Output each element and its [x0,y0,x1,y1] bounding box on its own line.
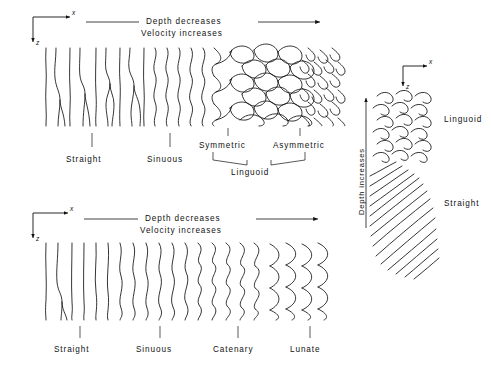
depth-decreases-label: Depth decreases [145,214,220,223]
label-lunate: Lunate [290,345,320,354]
right-panel-labels: Linguoid Straight [444,115,482,208]
right-bedform-field [370,90,439,279]
bottom-panel-labels: Straight Sinuous Catenary Lunate [54,326,320,354]
right-straight-zone [370,162,439,279]
label-straight: Straight [66,155,101,164]
bottom-header: Depth decreases Velocity increases [84,214,318,235]
z-axis-label: z [405,83,410,90]
linguoid-brace-left [213,152,247,165]
top-axis-indicator: x z [33,9,76,46]
right-linguoid-zone [373,90,431,162]
right-axis-indicator: x z [403,58,433,90]
depth-decreases-label: Depth decreases [146,17,221,26]
label-straight: Straight [54,345,89,354]
bottom-bedform-field [46,243,328,320]
label-asymmetric: Asymmetric [273,141,325,150]
label-sinuous: Sinuous [147,155,183,164]
linguoid-brace-right [271,152,305,165]
top-bedform-field [46,44,345,126]
top-panel-labels: Straight Sinuous Symmetric Asymmetric Li… [66,128,325,177]
top-panel: x z Depth decreases Velocity increases [33,9,345,177]
label-sinuous: Sinuous [136,345,172,354]
top-header: Depth decreases Velocity increases [86,17,320,38]
label-linguoid: Linguoid [444,115,482,124]
bottom-axis-indicator: x z [33,205,74,242]
depth-increases-label: Depth increases [357,148,366,215]
bedform-figure: x z Depth decreases Velocity increases [0,0,491,371]
symmetric-linguoid-scales [230,44,314,126]
label-straight: Straight [444,199,479,208]
asymmetric-linguoid-scales [300,48,345,126]
bottom-panel: x z Depth decreases Velocity increases [33,205,328,354]
right-panel: x z Depth increases [357,58,482,279]
x-axis-label: x [428,58,433,65]
z-axis-label: z [35,235,40,242]
velocity-increases-label: Velocity increases [141,29,223,38]
figure-canvas: x z Depth decreases Velocity increases [0,0,491,371]
x-axis-label: x [69,205,74,212]
right-depth-axis: Depth increases [357,98,366,228]
label-catenary: Catenary [213,345,253,354]
label-symmetric: Symmetric [199,141,246,150]
z-axis-label: z [35,39,40,46]
velocity-increases-label: Velocity increases [140,226,222,235]
x-axis-label: x [71,9,76,16]
label-linguoid-group: Linguoid [231,168,269,177]
